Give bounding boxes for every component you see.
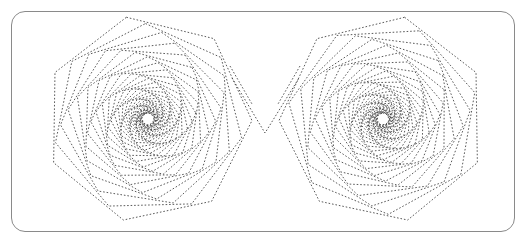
left-outer-tail	[230, 66, 252, 104]
spiral-figure-svg	[0, 0, 528, 246]
left-spiral-ring-8	[96, 70, 198, 171]
figure-canvas	[0, 0, 528, 246]
left-spiral-ring-2	[61, 32, 230, 203]
right-spiral-ring-2	[301, 36, 471, 206]
right-spiral-ring-10	[339, 76, 423, 162]
right-spiral-ring-4	[310, 45, 454, 187]
left-spiral-ring-18	[126, 98, 169, 141]
right-spiral	[279, 17, 477, 220]
center-v-connector	[232, 78, 299, 133]
right-spiral-ring-33	[377, 113, 389, 125]
right-spiral-ring-8	[334, 67, 436, 169]
left-spiral-ring-7	[91, 63, 201, 174]
right-outer-tail	[278, 66, 300, 104]
left-spiral-ring-1	[56, 24, 242, 207]
left-spiral-ring-31	[141, 112, 155, 126]
center-v-connector	[232, 78, 299, 133]
left-spiral-ring-5	[86, 52, 216, 184]
right-spiral-ring-12	[349, 83, 421, 156]
stray-segments	[230, 66, 300, 104]
left-spiral-ring-3	[68, 43, 224, 199]
left-spiral	[54, 17, 252, 220]
left-spiral-ring-11	[108, 78, 187, 155]
left-spiral-ring-33	[142, 113, 154, 125]
right-spiral-ring-7	[330, 64, 440, 175]
right-spiral-ring-6	[322, 62, 443, 181]
right-spiral-ring-18	[362, 97, 405, 140]
left-spiral-ring-32	[141, 113, 154, 126]
right-spiral-ring-5	[315, 53, 444, 185]
right-spiral-ring-0	[279, 17, 477, 220]
left-spiral-ring-0	[54, 17, 252, 220]
